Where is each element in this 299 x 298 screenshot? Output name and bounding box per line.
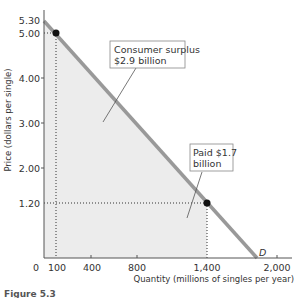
y-tick-500: 5.00: [19, 28, 40, 39]
figure-caption: Figure 5.3: [4, 289, 56, 298]
y-tick-120: 1.20: [19, 198, 40, 209]
paid-callout-line2: billion: [193, 158, 221, 169]
demand-curve-label: D: [259, 247, 266, 258]
cs-callout-line1: Consumer surplus: [114, 44, 200, 55]
y-tick-300: 3.00: [19, 118, 40, 129]
x-tick-1400: 1,400: [193, 262, 220, 273]
x-axis-title: Quantity (millions of singles per year): [134, 274, 294, 284]
x-tick-800: 800: [128, 262, 146, 273]
y-tick-200: 2.00: [19, 163, 40, 174]
cs-callout-line2: $2.9 billion: [114, 55, 167, 66]
point-q100-p500: [53, 30, 60, 37]
point-q1400-p120: [204, 200, 211, 207]
amount-paid-area: [44, 203, 207, 258]
paid-callout-line1: Paid $1.7: [193, 147, 237, 158]
x-tick-0: 0: [33, 262, 39, 273]
x-tick-400: 400: [83, 262, 101, 273]
x-tick-2000: 2,000: [263, 262, 290, 273]
y-tick-400: 4.00: [19, 73, 40, 84]
y-tick-530: 5.30: [19, 15, 40, 26]
demand-chart: 5.30 5.00 4.00 3.00 2.00 1.20 0 100 400 …: [0, 0, 299, 298]
y-axis-title: Price (dollars per single): [3, 68, 13, 171]
x-tick-100: 100: [48, 262, 66, 273]
